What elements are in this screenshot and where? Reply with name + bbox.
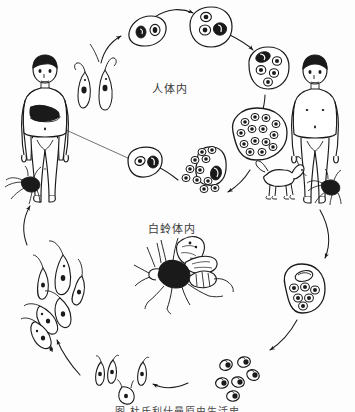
stage-macrophage-in-sandfly bbox=[284, 264, 325, 313]
stage-amastigote-dividing-macrophage bbox=[190, 7, 232, 47]
label-sandfly-host: 白蛉体内 bbox=[148, 220, 196, 236]
stage-macrophage-multiple-amastigotes bbox=[249, 47, 289, 89]
stage-macrophage-packed-amastigotes bbox=[233, 108, 287, 160]
life-cycle-drawing bbox=[0, 0, 355, 412]
leishmania-life-cycle-figure: 人体内 白蛉体内 图 杜氏利什曼原虫生活史 bbox=[0, 0, 355, 412]
figure-caption: 图 杜氏利什曼原虫生活史 bbox=[0, 403, 355, 412]
stage-free-amastigotes bbox=[128, 147, 162, 177]
label-human-host: 人体内 bbox=[152, 80, 188, 96]
